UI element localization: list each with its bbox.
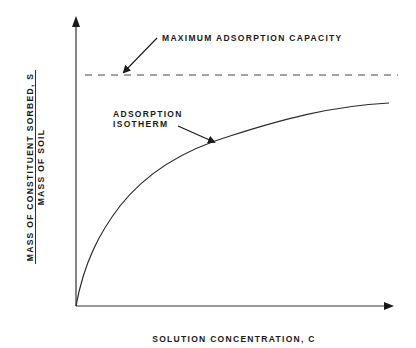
y-axis-label: MASS OF CONSTITUENT SORBED, S MASS OF SO…: [25, 70, 46, 264]
isotherm-label-line1: ADSORPTION: [113, 109, 183, 119]
isotherm-label-line2: ISOTHERM: [113, 119, 168, 129]
y-axis-label-numerator: MASS OF CONSTITUENT SORBED, S: [25, 73, 35, 261]
isotherm-pointer: [178, 126, 214, 142]
y-axis-arrow-icon: [72, 16, 80, 27]
isotherm-curve: [76, 103, 389, 306]
max-capacity-pointer: [124, 38, 157, 72]
isotherm-diagram: MAXIMUM ADSORPTION CAPACITY ADSORPTION I…: [0, 0, 416, 348]
x-axis-arrow-icon: [384, 302, 394, 310]
y-axis-label-denominator: MASS OF SOIL: [36, 129, 46, 206]
x-axis-label: SOLUTION CONCENTRATION, C: [152, 334, 316, 344]
max-capacity-label: MAXIMUM ADSORPTION CAPACITY: [162, 33, 343, 43]
